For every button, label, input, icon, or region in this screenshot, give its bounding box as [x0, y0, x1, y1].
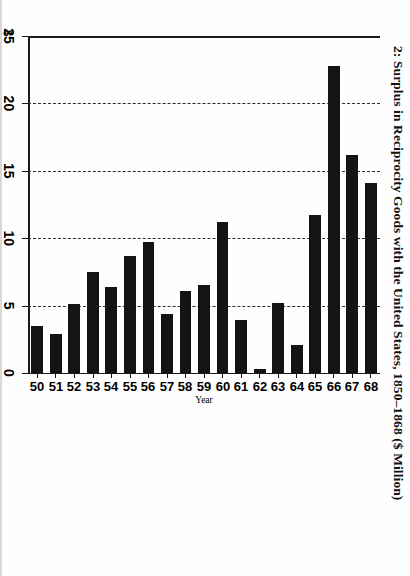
year-label-56: 56: [141, 379, 155, 394]
value-tick-5: [22, 306, 28, 307]
year-label-64: 64: [289, 379, 303, 394]
year-tick-51: [56, 373, 57, 378]
year-label-53: 53: [86, 379, 100, 394]
bar-65: [309, 215, 321, 373]
year-label-65: 65: [308, 379, 322, 394]
year-tick-50: [37, 373, 38, 378]
bar-58: [180, 291, 192, 373]
value-tick-label-10: 10: [1, 230, 17, 246]
year-label-50: 50: [30, 379, 44, 394]
year-tick-56: [148, 373, 149, 378]
value-tick-15: [22, 171, 28, 172]
value-tick-20: [22, 103, 28, 104]
year-tick-63: [278, 373, 279, 378]
year-label-59: 59: [197, 379, 211, 394]
year-tick-59: [204, 373, 205, 378]
bar-68: [365, 183, 377, 373]
year-label-61: 61: [234, 379, 248, 394]
bar-57: [161, 314, 173, 373]
year-label-58: 58: [178, 379, 192, 394]
figure-title: 2: Surplus in Reciprocity Goods with the…: [390, 46, 406, 500]
bar-55: [124, 256, 136, 373]
value-tick-label-0: 0: [1, 369, 17, 377]
year-label-51: 51: [49, 379, 63, 394]
bar-54: [105, 287, 117, 373]
year-tick-62: [259, 373, 260, 378]
year-tick-54: [111, 373, 112, 378]
figure-page: 2: Surplus in Reciprocity Goods with the…: [0, 0, 410, 576]
category-axis-line: [28, 36, 30, 373]
year-label-57: 57: [160, 379, 174, 394]
year-tick-61: [241, 373, 242, 378]
year-label-68: 68: [364, 379, 378, 394]
value-tick-10: [22, 238, 28, 239]
value-tick-25: [22, 36, 28, 37]
value-tick-label-5: 5: [1, 302, 17, 310]
value-tick-label-15: 15: [1, 163, 17, 179]
bar-67: [346, 155, 358, 373]
year-tick-52: [74, 373, 75, 378]
year-tick-64: [296, 373, 297, 378]
bar-66: [328, 66, 340, 373]
plot-area: 0510152025: [28, 36, 380, 373]
rotated-figure-canvas: 2: Surplus in Reciprocity Goods with the…: [0, 0, 410, 576]
category-axis-title: Year: [195, 395, 213, 405]
bar-60: [217, 222, 229, 373]
bar-61: [235, 320, 247, 373]
bar-50: [31, 326, 43, 373]
year-tick-67: [352, 373, 353, 378]
year-label-67: 67: [345, 379, 359, 394]
year-label-54: 54: [104, 379, 118, 394]
year-label-55: 55: [123, 379, 137, 394]
year-tick-58: [185, 373, 186, 378]
year-label-62: 62: [252, 379, 266, 394]
bar-63: [272, 303, 284, 373]
year-tick-60: [222, 373, 223, 378]
bar-64: [291, 345, 303, 373]
bar-52: [68, 304, 80, 373]
year-label-52: 52: [67, 379, 81, 394]
value-tick-label-20: 20: [1, 96, 17, 112]
value-axis-line: [28, 36, 380, 38]
year-tick-53: [93, 373, 94, 378]
year-label-60: 60: [215, 379, 229, 394]
year-tick-68: [370, 373, 371, 378]
bar-51: [50, 334, 62, 373]
bar-53: [87, 272, 99, 373]
year-tick-66: [333, 373, 334, 378]
year-label-66: 66: [326, 379, 340, 394]
bar-56: [143, 242, 155, 373]
year-label-63: 63: [271, 379, 285, 394]
year-tick-55: [130, 373, 131, 378]
year-tick-57: [167, 373, 168, 378]
value-tick-label-25: 25: [1, 28, 17, 44]
value-tick-0: [22, 373, 28, 374]
year-tick-65: [315, 373, 316, 378]
bar-59: [198, 285, 210, 373]
